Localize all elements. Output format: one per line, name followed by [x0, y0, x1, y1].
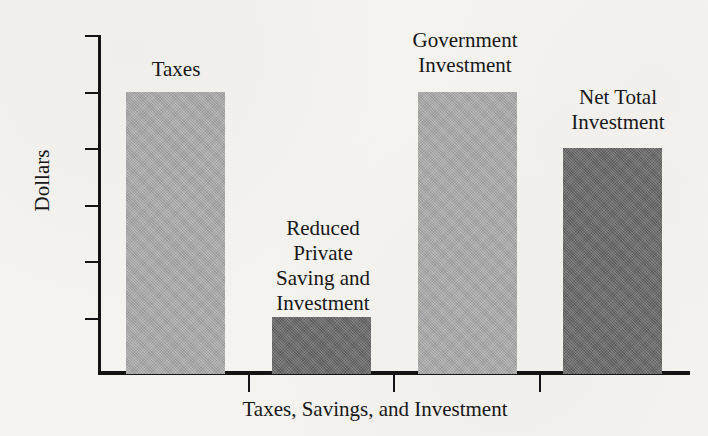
- y-tick-mark-40: [85, 261, 99, 263]
- y-tick-mark-60: [85, 205, 99, 207]
- bar-label-taxes: Taxes: [106, 57, 246, 82]
- bar-government-investment[interactable]: [418, 92, 517, 374]
- bar-taxes[interactable]: [126, 92, 225, 374]
- bar-label-net-total-investment: Net Total Investment: [538, 85, 698, 135]
- y-axis-title: Dollars: [32, 121, 53, 241]
- y-tick-mark-120: [85, 35, 99, 37]
- y-tick-mark-80: [85, 148, 99, 150]
- x-tick-mark-1: [248, 375, 250, 392]
- y-tick-mark-20: [85, 318, 99, 320]
- x-tick-mark-2: [393, 375, 395, 392]
- bar-reduced-private-saving-and-investment[interactable]: [272, 317, 371, 374]
- x-tick-mark-3: [539, 375, 541, 392]
- y-tick-mark-100: [85, 92, 99, 94]
- bar-net-total-investment[interactable]: [563, 148, 662, 374]
- bar-label-government-investment: Government Investment: [375, 28, 555, 78]
- bar-label-reduced-private-saving-and-investment: Reduced Private Saving and Investment: [243, 216, 403, 316]
- x-axis-title: Taxes, Savings, and Investment: [0, 398, 708, 421]
- bar-chart-figure: Dollars 120 100 80 60 40 20 0 Taxes Redu…: [0, 0, 708, 436]
